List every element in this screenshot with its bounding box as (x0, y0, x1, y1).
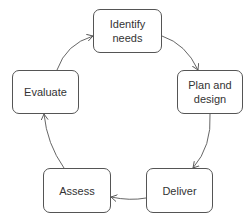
arrow-identify-to-plan (162, 36, 198, 70)
node-label: Evaluate (24, 85, 67, 99)
node-label: Deliver (162, 184, 196, 198)
node-evaluate: Evaluate (12, 70, 79, 114)
node-label: Plan and design (180, 78, 240, 106)
node-label: Identify needs (96, 17, 159, 45)
arrow-assess-to-evaluate (44, 114, 64, 168)
node-deliver: Deliver (146, 168, 213, 213)
arrow-plan-to-deliver (193, 114, 210, 168)
cycle-diagram: Identify needs Plan and design Deliver A… (0, 0, 251, 224)
node-plan-and-design: Plan and design (177, 70, 243, 114)
arrow-deliver-to-assess (111, 197, 146, 199)
node-identify-needs: Identify needs (93, 9, 162, 53)
node-label: Assess (59, 184, 94, 198)
node-assess: Assess (43, 168, 111, 213)
arrow-evaluate-to-identify (57, 36, 93, 70)
